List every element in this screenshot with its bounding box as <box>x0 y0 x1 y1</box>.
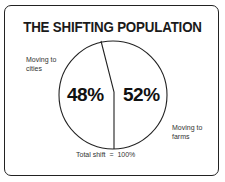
cities-percent: 48% <box>67 84 104 106</box>
cities-label-line2: cities <box>26 64 56 73</box>
farms-label-line2: farms <box>172 132 202 141</box>
cities-label: Moving to cities <box>26 55 56 73</box>
total-shift-label: Total shift = 100% <box>76 150 135 159</box>
farms-label: Moving to farms <box>172 123 202 141</box>
farms-label-line1: Moving to <box>172 123 202 132</box>
farms-percent: 52% <box>123 84 160 106</box>
cities-label-line1: Moving to <box>26 55 56 64</box>
